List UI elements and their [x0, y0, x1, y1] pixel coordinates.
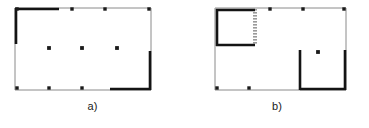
- marker-bottom-mid-1: [47, 86, 50, 89]
- figure-panel-a: a): [0, 0, 185, 128]
- marker-top-mid-1: [268, 7, 271, 10]
- marker-top-mid-1: [70, 7, 73, 10]
- figure-panel-b: b): [185, 0, 369, 128]
- inner-room-right-wall-hatched-dash: [253, 18, 257, 20]
- figure-a-caption: a): [0, 100, 185, 112]
- floor-plan-a-drawing: [0, 0, 185, 100]
- inner-room-right-wall-hatched-dash: [253, 33, 257, 35]
- marker-bottom-mid-2: [80, 86, 83, 89]
- marker-top-mid-2: [103, 7, 106, 10]
- inner-room-right-wall-hatched-dash: [253, 24, 257, 26]
- inner-room-right-wall-hatched-dash: [253, 27, 257, 29]
- marker-top-mid-2: [301, 7, 304, 10]
- inner-room-right-wall-hatched-dash: [253, 36, 257, 38]
- inner-room-right-wall-hatched-dash: [253, 42, 257, 44]
- inner-room-right-wall-hatched-dash: [253, 15, 257, 17]
- marker-top-left: [15, 7, 18, 10]
- interior-point-3: [115, 46, 119, 50]
- inner-room-right-wall-hatched-dash: [253, 39, 257, 41]
- inner-room-right-wall-hatched-dash: [253, 21, 257, 23]
- floor-plan-b-drawing: [185, 0, 369, 100]
- floor-plan-figure: a) b): [0, 0, 369, 128]
- inner-room-right-wall-hatched-dash: [253, 30, 257, 32]
- marker-bottom-left: [15, 86, 18, 89]
- figure-b-caption: b): [185, 100, 369, 112]
- inner-room-right-wall-hatched-dash: [253, 12, 257, 14]
- marker-bottom-mid: [247, 86, 250, 89]
- marker-top-right: [342, 7, 345, 10]
- interior-point-1: [316, 50, 320, 54]
- interior-point-2: [80, 46, 84, 50]
- marker-top-right: [147, 7, 150, 10]
- marker-bottom-left: [215, 86, 218, 89]
- interior-point-1: [47, 46, 51, 50]
